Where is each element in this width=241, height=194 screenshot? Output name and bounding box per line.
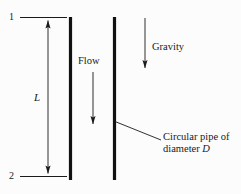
callout-leader-line: [115, 122, 161, 141]
station-label-top: 1: [9, 11, 14, 22]
pipe-callout-text: Circular pipe of diameter D: [163, 131, 229, 156]
pipe-flow-diagram: 1 2 L Flow Gravity Circular pipe of diam…: [0, 0, 241, 194]
length-dimension-label: L: [34, 91, 40, 103]
station-label-bottom: 2: [9, 170, 14, 181]
pipe-callout-diameter-symbol: D: [202, 143, 210, 154]
gravity-label: Gravity: [152, 41, 184, 53]
pipe-callout-diameter-word: diameter: [163, 143, 202, 154]
pipe-callout-line-1: Circular pipe of: [163, 131, 229, 143]
pipe-callout-line-2: diameter D: [163, 143, 229, 155]
flow-label: Flow: [78, 55, 100, 67]
